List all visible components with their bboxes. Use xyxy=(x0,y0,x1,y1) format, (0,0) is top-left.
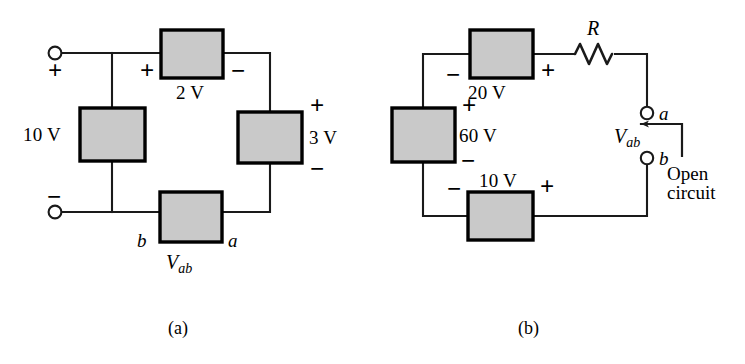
source-60v-value-label: 60 V xyxy=(459,126,497,145)
node-label-b-panel-a: b xyxy=(137,231,147,250)
source-2v-plus-sign: + xyxy=(140,62,154,80)
source-3v-value-label: 3 V xyxy=(309,128,337,147)
source-3v-plus-sign: + xyxy=(310,97,324,115)
caption-panel-b: (b) xyxy=(518,319,539,337)
node-label-a-panel-b: a xyxy=(659,104,669,123)
source-10v-b-minus-sign: − xyxy=(447,180,461,198)
vab-subscript: ab xyxy=(178,261,192,276)
source-box-10v[interactable] xyxy=(80,108,145,161)
source-60v-minus-sign: − xyxy=(461,152,475,170)
source-20v-minus-sign: − xyxy=(446,66,460,84)
circuit-drawing xyxy=(0,0,745,364)
terminal-b[interactable] xyxy=(641,152,653,164)
source-box-3v[interactable] xyxy=(238,112,302,163)
source-3v-minus-sign: − xyxy=(310,160,324,178)
source-box-2v[interactable] xyxy=(161,30,223,78)
source-box-20v[interactable] xyxy=(470,30,533,78)
open-circuit-annotation-line2: circuit xyxy=(667,183,716,204)
source-box-vab[interactable] xyxy=(160,192,222,242)
vab-subscript-b: ab xyxy=(626,135,640,150)
vab-symbol: V xyxy=(166,251,178,273)
circuit-figure: + − + − 2 V 10 V + 3 V − b a Vab (a) − +… xyxy=(0,0,745,364)
source-box-60v[interactable] xyxy=(392,108,455,162)
node-label-a-panel-a: a xyxy=(228,231,238,250)
terminal-bottom-a-minus-sign: − xyxy=(47,188,61,206)
caption-panel-a: (a) xyxy=(168,319,188,337)
source-10v-b-value-label: 10 V xyxy=(479,171,517,190)
vab-label-panel-a: Vab xyxy=(166,252,192,276)
source-2v-value-label: 2 V xyxy=(176,83,204,102)
source-2v-minus-sign: − xyxy=(231,62,245,80)
source-10v-b-plus-sign: + xyxy=(540,178,554,196)
terminal-top-a-plus-sign: + xyxy=(48,62,62,80)
terminal-a[interactable] xyxy=(641,107,653,119)
source-box-10v-b[interactable] xyxy=(468,192,533,240)
source-20v-plus-sign: + xyxy=(541,62,555,80)
vab-label-panel-b: Vab xyxy=(614,126,640,150)
vab-symbol-b: V xyxy=(614,125,626,147)
resistor-label-R: R xyxy=(587,18,599,38)
source-10v-value-label: 10 V xyxy=(23,125,61,144)
source-60v-plus-sign: + xyxy=(462,97,476,115)
